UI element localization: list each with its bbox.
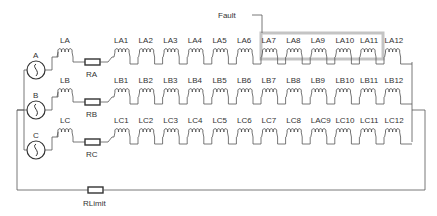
segment-label: LC6 bbox=[237, 116, 252, 125]
segment-link-wire bbox=[179, 137, 187, 144]
line-inductor-icon bbox=[58, 49, 72, 52]
segment-link-wire bbox=[253, 137, 261, 144]
segment-label: LB1 bbox=[114, 76, 129, 85]
resistor-icon bbox=[85, 139, 100, 145]
segment-label: LC2 bbox=[139, 116, 154, 125]
segment-inductor-icon bbox=[238, 89, 252, 92]
three-phase-fault-schematic: Fault ALARALA1LA2LA3LA4LA5LA6LA7LA8LA9LA… bbox=[0, 0, 437, 216]
line-inductor-label: LB bbox=[60, 76, 70, 85]
resistor-icon bbox=[85, 99, 100, 105]
source-wire bbox=[45, 92, 58, 110]
segment-inductor-icon bbox=[213, 129, 227, 132]
segment-link-wire bbox=[351, 137, 359, 144]
segment-inductor-icon bbox=[385, 129, 399, 132]
segment-link-wire bbox=[204, 97, 212, 104]
resistor-wire bbox=[73, 137, 85, 142]
end-wire bbox=[401, 97, 412, 104]
segment-inductor-icon bbox=[238, 129, 252, 132]
segment-link-wire bbox=[130, 57, 138, 64]
segment-label: LA1 bbox=[114, 36, 129, 45]
end-wire bbox=[401, 137, 412, 144]
segment-inductor-icon bbox=[262, 49, 276, 52]
resistor-icon bbox=[85, 59, 100, 65]
fault-label: Fault bbox=[218, 11, 237, 20]
resistor-label: RC bbox=[86, 150, 98, 159]
segment-label: LC1 bbox=[114, 116, 129, 125]
segment-label: LB8 bbox=[286, 76, 301, 85]
segment-link-wire bbox=[228, 137, 236, 144]
series-wire bbox=[100, 137, 114, 142]
segment-inductor-icon bbox=[213, 89, 227, 92]
segment-link-wire bbox=[155, 97, 163, 104]
line-inductor-icon bbox=[58, 129, 72, 132]
resistor-wire bbox=[73, 97, 85, 102]
neutral-bus bbox=[17, 70, 88, 190]
segment-label: LB6 bbox=[237, 76, 252, 85]
segment-inductor-icon bbox=[336, 89, 350, 92]
segment-inductor-icon bbox=[189, 89, 203, 92]
segment-label: LC5 bbox=[212, 116, 227, 125]
segment-inductor-icon bbox=[189, 49, 203, 52]
segment-label: LC8 bbox=[286, 116, 301, 125]
segment-label: LB11 bbox=[360, 76, 379, 85]
segment-label: LB7 bbox=[262, 76, 277, 85]
segment-label: LC10 bbox=[335, 116, 355, 125]
segment-inductor-icon bbox=[385, 49, 399, 52]
segment-label: LA4 bbox=[188, 36, 203, 45]
series-wire bbox=[100, 57, 114, 62]
segment-label: LC11 bbox=[360, 116, 379, 125]
segment-inductor-icon bbox=[336, 129, 350, 132]
segment-label: LA7 bbox=[262, 36, 277, 45]
segment-inductor-icon bbox=[139, 49, 153, 52]
segment-inductor-icon bbox=[164, 89, 178, 92]
line-inductor-icon bbox=[58, 89, 72, 92]
segment-label: LAC9 bbox=[311, 116, 332, 125]
segment-label: LB5 bbox=[212, 76, 227, 85]
segment-label: LA11 bbox=[360, 36, 379, 45]
segment-link-wire bbox=[327, 97, 335, 104]
source-label: B bbox=[33, 91, 38, 100]
segment-inductor-icon bbox=[164, 49, 178, 52]
segment-label: LC4 bbox=[188, 116, 203, 125]
segment-inductor-icon bbox=[336, 49, 350, 52]
segment-label: LC12 bbox=[385, 116, 405, 125]
end-wire bbox=[401, 57, 412, 64]
line-inductor-label: LA bbox=[60, 36, 70, 45]
segment-inductor-icon bbox=[115, 129, 129, 132]
segment-label: LB10 bbox=[335, 76, 354, 85]
segment-label: LC7 bbox=[262, 116, 277, 125]
segment-inductor-icon bbox=[312, 129, 326, 132]
segment-label: LA8 bbox=[286, 36, 301, 45]
segment-link-wire bbox=[302, 97, 310, 104]
segment-link-wire bbox=[204, 57, 212, 64]
rlimit-resistor-icon bbox=[88, 187, 103, 193]
source-wire bbox=[45, 52, 58, 70]
segment-inductor-icon bbox=[312, 49, 326, 52]
segment-link-wire bbox=[155, 57, 163, 64]
segment-inductor-icon bbox=[115, 89, 129, 92]
segment-link-wire bbox=[351, 97, 359, 104]
resistor-wire bbox=[73, 57, 85, 62]
segment-inductor-icon bbox=[262, 129, 276, 132]
segment-inductor-icon bbox=[287, 89, 301, 92]
segment-inductor-icon bbox=[238, 49, 252, 52]
rlimit-label: RLimit bbox=[83, 199, 106, 208]
segment-label: LC3 bbox=[163, 116, 178, 125]
segment-inductor-icon bbox=[189, 129, 203, 132]
segment-link-wire bbox=[155, 137, 163, 144]
segment-inductor-icon bbox=[115, 49, 129, 52]
segment-link-wire bbox=[302, 137, 310, 144]
segment-label: LA9 bbox=[311, 36, 326, 45]
segment-inductor-icon bbox=[164, 129, 178, 132]
segment-label: LA5 bbox=[212, 36, 227, 45]
segment-link-wire bbox=[130, 137, 138, 144]
segment-inductor-icon bbox=[361, 49, 375, 52]
segment-link-wire bbox=[278, 97, 286, 104]
segment-inductor-icon bbox=[213, 49, 227, 52]
segment-inductor-icon bbox=[139, 129, 153, 132]
segment-link-wire bbox=[228, 57, 236, 64]
segment-label: LA6 bbox=[237, 36, 252, 45]
segment-link-wire bbox=[253, 97, 261, 104]
segment-label: LA10 bbox=[335, 36, 354, 45]
segment-link-wire bbox=[376, 137, 384, 144]
